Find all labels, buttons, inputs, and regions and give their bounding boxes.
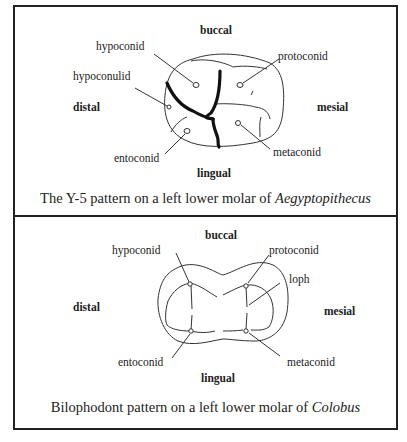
panel-y5: buccal distal mesial lingual hypoconid p…	[15, 7, 396, 217]
label-distal: distal	[73, 301, 100, 313]
label-buccal: buccal	[200, 24, 232, 36]
label-hypoconulid: hypoconulid	[73, 70, 131, 82]
label-mesial: mesial	[317, 101, 348, 113]
label-lingual: lingual	[197, 167, 231, 179]
label-mesial: mesial	[324, 305, 355, 317]
caption-y5: The Y-5 pattern on a left lower molar of…	[15, 190, 396, 207]
genus-colobus: Colobus	[312, 399, 360, 415]
label-hypoconid: hypoconid	[112, 244, 161, 256]
label-entoconid: entoconid	[118, 356, 163, 368]
label-protoconid: protoconid	[278, 50, 328, 62]
panel-bilophodont: buccal distal mesial lingual hypoconid p…	[15, 217, 396, 428]
label-metaconid: metaconid	[287, 356, 335, 368]
label-loph: loph	[289, 273, 309, 285]
label-lingual: lingual	[201, 372, 235, 384]
label-buccal: buccal	[205, 229, 237, 241]
bilophodont-molar-drawing	[15, 217, 400, 428]
label-hypoconid: hypoconid	[96, 40, 145, 52]
label-distal: distal	[73, 101, 100, 113]
label-entoconid: entoconid	[114, 152, 159, 164]
figure-frame: buccal distal mesial lingual hypoconid p…	[13, 5, 398, 430]
caption-bilophodont: Bilophodont pattern on a left lower mola…	[15, 399, 396, 416]
label-metaconid: metaconid	[273, 146, 321, 158]
genus-aegyptopithecus: Aegyptopithecus	[275, 190, 371, 206]
label-protoconid: protoconid	[269, 244, 319, 256]
